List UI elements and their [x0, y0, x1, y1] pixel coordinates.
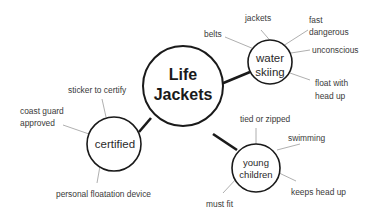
leaf-head-up: head up [315, 91, 346, 101]
water-skiing-label-line1: water [255, 52, 284, 64]
leaf-line-float [290, 73, 310, 80]
mind-map-diagram: Life Jackets water skiing certified youn… [0, 0, 381, 221]
leaf-coast-guard: coast guard [20, 106, 64, 116]
leaf-personal-floatation-device: personal floatation device [56, 189, 151, 199]
leaf-float-with: float with [315, 78, 348, 88]
leaf-line-swimming [277, 144, 300, 150]
leaf-keeps-head-up: keeps head up [291, 187, 346, 197]
leaf-fast: fast [309, 15, 323, 25]
water-skiing-label-line2: skiing [255, 66, 284, 78]
young-children-label-line2: children [239, 169, 272, 180]
leaf-sticker-to-certify: sticker to certify [68, 85, 127, 95]
branch-line-water-skiing [221, 72, 250, 84]
leaf-line-fast-dangerous [283, 30, 308, 46]
certified-label: certified [95, 138, 135, 150]
branch-line-certified [139, 118, 151, 132]
leaf-line-belts [225, 37, 254, 49]
leaf-line-coast-guard [63, 125, 89, 134]
leaf-line-pfd [97, 166, 100, 183]
leaf-approved: approved [20, 118, 55, 128]
leaf-tied-or-zipped: tied or zipped [240, 114, 291, 124]
leaf-must-fit: must fit [206, 199, 234, 209]
young-children-label-line1: young [243, 157, 269, 168]
young-children-node-circle [232, 144, 280, 192]
leaf-jackets: jackets [244, 13, 271, 23]
center-title-line1: Life [169, 66, 198, 83]
leaf-line-unconscious [291, 50, 310, 53]
leaf-swimming: swimming [288, 133, 326, 143]
leaf-unconscious: unconscious [312, 45, 359, 55]
leaf-belts: belts [204, 29, 222, 39]
branch-line-young-children [213, 134, 237, 150]
center-title-line2: Jackets [154, 86, 213, 103]
leaf-line-sticker [102, 99, 106, 117]
leaf-dangerous: dangerous [309, 27, 349, 37]
